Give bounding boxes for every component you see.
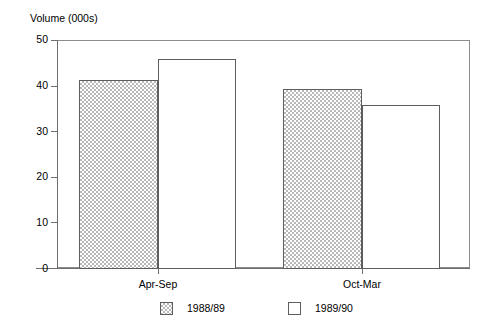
bar-apr-sep-1989-90 <box>158 59 236 269</box>
y-tick-10 <box>51 222 57 223</box>
legend-swatch-checkered-icon <box>160 302 173 315</box>
chart-legend: 1988/89 1989/90 <box>0 300 487 320</box>
x-tick-apr-sep <box>158 269 159 274</box>
bar-apr-sep-1988-89 <box>79 80 158 269</box>
legend-entry-1989-90: 1989/90 <box>288 300 353 316</box>
y-tick-40 <box>51 86 57 87</box>
bar-oct-mar-1988-89 <box>283 89 362 269</box>
y-tick-label-20: 20 <box>2 171 48 182</box>
x-tick-label-oct-mar: Oct-Mar <box>343 278 381 290</box>
x-tick-label-apr-sep: Apr-Sep <box>139 278 178 290</box>
y-axis-title: Volume (000s) <box>30 12 98 25</box>
y-tick-label-50: 50 <box>2 34 48 45</box>
legend-entry-1988-89: 1988/89 <box>160 300 225 316</box>
legend-label-1988-89: 1988/89 <box>187 302 225 314</box>
legend-label-1989-90: 1989/90 <box>315 302 353 314</box>
y-tick-50 <box>51 40 57 41</box>
y-tick-0 <box>51 268 57 269</box>
y-tick-label-10: 10 <box>2 217 48 228</box>
y-tick-label-0: 0 <box>2 263 48 274</box>
y-tick-label-30: 30 <box>2 126 48 137</box>
y-tick-20 <box>51 177 57 178</box>
bar-oct-mar-1989-90 <box>362 105 440 269</box>
y-tick-label-40: 40 <box>2 80 48 91</box>
legend-swatch-white-icon <box>288 302 301 315</box>
y-axis-line <box>57 40 58 269</box>
y-tick-30 <box>51 131 57 132</box>
x-tick-oct-mar <box>362 269 363 274</box>
bar-chart: Volume (000s) 50 40 30 20 10 0 Apr-Sep O… <box>0 0 487 334</box>
